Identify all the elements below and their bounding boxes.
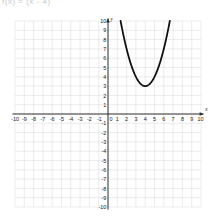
y-tick-label: -7 (101, 176, 106, 182)
coordinate-plane: x y 0 -10 -9 -8 -7 -6 -5 -4 -3 -2 -1 1 2… (0, 0, 218, 222)
x-tick-label: 3 (134, 116, 137, 122)
x-tick-labels-negative: -10 -9 -8 -7 -6 -5 -4 -3 -2 -1 (11, 116, 102, 122)
y-tick-label: -8 (101, 186, 106, 192)
x-tick-label: 4 (144, 116, 147, 122)
x-axis-arrow (200, 112, 204, 116)
y-tick-label: -5 (101, 158, 106, 164)
y-axis-label: y (110, 16, 114, 22)
x-tick-label: 9 (190, 116, 193, 122)
x-tick-label: -3 (78, 116, 83, 122)
x-tick-label: 8 (181, 116, 184, 122)
y-tick-label: -2 (101, 130, 106, 136)
y-axis-arrow (106, 18, 110, 22)
origin-label: 0 (110, 116, 113, 122)
y-tick-label: 8 (103, 37, 106, 43)
y-tick-label: 10 (100, 18, 106, 24)
y-tick-label: -9 (101, 195, 106, 201)
y-tick-label: -4 (101, 148, 106, 154)
x-tick-label: -10 (11, 116, 19, 122)
axes (13, 19, 204, 210)
y-tick-label: 9 (103, 27, 106, 33)
y-tick-label: 4 (103, 74, 106, 80)
y-tick-label: 2 (103, 93, 106, 99)
y-tick-label: 7 (103, 46, 106, 52)
x-tick-label: 2 (125, 116, 128, 122)
x-tick-label: -7 (41, 116, 46, 122)
x-tick-label: 10 (198, 116, 204, 122)
x-tick-label: 5 (153, 116, 156, 122)
x-tick-label: -9 (22, 116, 27, 122)
y-tick-labels-negative: -1 -2 -3 -4 -5 -6 -7 -8 -9 -10 (98, 120, 106, 210)
y-tick-label: 5 (103, 65, 106, 71)
y-tick-label: 6 (103, 55, 106, 61)
x-axis-label: x (204, 106, 208, 112)
x-tick-label: -5 (59, 116, 64, 122)
y-tick-label: 3 (103, 83, 106, 89)
x-tick-label: -6 (50, 116, 55, 122)
y-tick-label: -10 (98, 204, 106, 210)
x-tick-label: -2 (87, 116, 92, 122)
axis-arrowheads (106, 18, 204, 116)
y-tick-labels-positive: 1 2 3 4 5 6 7 8 9 10 (100, 18, 106, 108)
x-tick-label: 1 (116, 116, 119, 122)
y-tick-label: 1 (103, 102, 106, 108)
y-tick-label: -1 (101, 120, 106, 126)
x-tick-label: 7 (172, 116, 175, 122)
y-tick-label: -3 (101, 139, 106, 145)
x-tick-labels-positive: 1 2 3 4 5 6 7 8 9 10 (116, 116, 204, 122)
x-tick-label: 6 (162, 116, 165, 122)
x-tick-label: -8 (31, 116, 36, 122)
y-tick-label: -6 (101, 167, 106, 173)
graph-screenshot: f(x) = (x - 4) (0, 0, 218, 222)
x-tick-label: -4 (68, 116, 73, 122)
